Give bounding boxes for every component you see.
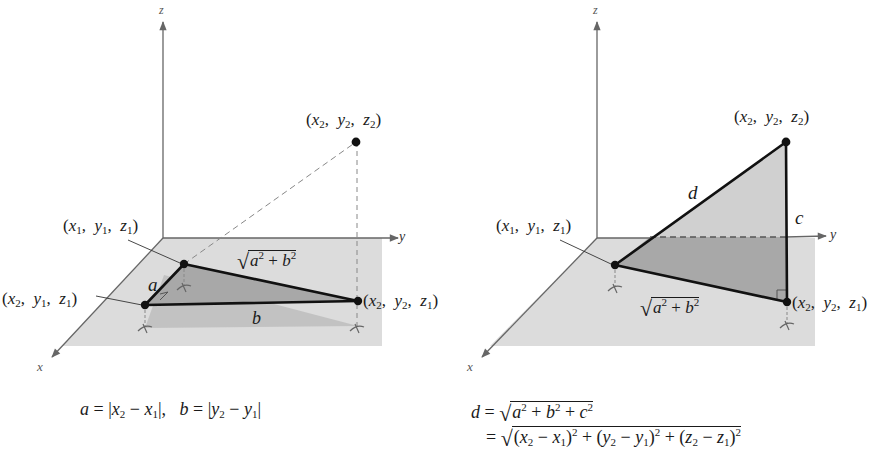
right-caption-line1: d = √a2 + b2 + c2 [471,401,593,425]
left-figure [52,22,398,357]
left-x-label: x [37,360,43,373]
left-edge-b: b [252,309,261,327]
left-point-p4 [352,138,361,147]
right-y-label: y [830,228,836,242]
left-label-p3: (x2, y2, z1) [363,292,438,309]
right-edge-d: d [688,183,698,202]
right-label-p1: (x1, y1, z1) [496,217,571,234]
right-edge-c: c [795,208,803,227]
right-x-label: x [467,360,473,373]
right-z-label: z [593,4,598,16]
right-caption-line2: = √(x2 − x1)2 + (y2 − y1)2 + (z2 − z1)2 [486,426,741,450]
left-caption: a = |x2 − x1|, b = |y2 − y1| [80,400,261,418]
left-edge-a: a [148,275,158,294]
right-label-p2: (x2, y2, z1) [792,294,867,311]
right-label-p3: (x2, y2, z2) [734,108,809,125]
right-y-axis-tip [786,236,826,237]
left-edge-hyp: √a2 + b2 [237,250,296,273]
left-point-p1 [180,260,188,268]
left-z-label: z [159,4,164,16]
right-edge-base: √a2 + b2 [640,297,699,320]
right-point-p2 [783,298,791,306]
left-label-p4: (x2, y2, z2) [306,111,381,128]
left-label-p1: (x1, y1, z1) [63,217,138,234]
right-point-p1 [611,261,619,269]
left-point-p2 [141,301,149,309]
right-point-p3 [782,138,791,147]
left-label-p2: (x2, y1, z1) [2,290,77,307]
left-point-p3 [354,297,362,305]
left-y-label: y [399,230,405,244]
